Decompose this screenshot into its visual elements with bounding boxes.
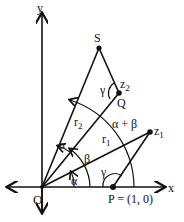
point-O: [40, 185, 44, 189]
label-alpha-bottom: α: [71, 174, 78, 188]
label-z1: z1: [154, 124, 164, 140]
label-S: S: [94, 31, 101, 45]
label-alpha-plus-beta: α + β: [112, 117, 137, 131]
label-r2: r2: [74, 115, 83, 131]
segment-P-to-z1: [113, 132, 150, 187]
label-P: P = (1, 0): [108, 192, 153, 206]
label-z2: z2: [120, 77, 130, 93]
label-Q: Q: [117, 96, 126, 110]
label-gamma-at-P: γ: [100, 165, 107, 179]
label-beta: β: [84, 152, 90, 166]
x-axis-label: x: [168, 181, 174, 195]
label-r1: r1: [102, 132, 111, 148]
arc-gamma-at-Q: [108, 83, 114, 99]
point-z1: [147, 129, 153, 135]
origin-label: O: [33, 192, 42, 207]
label-gamma-at-Q: γ: [99, 83, 106, 97]
complex-plane-rotation-diagram: y x O S Q z2 z1 P = (1, 0) r1 r2 α α β α…: [0, 0, 184, 222]
point-Q: [116, 90, 122, 96]
point-S: [96, 45, 101, 50]
ray-O-to-S: [42, 48, 99, 187]
y-axis-label: y: [37, 1, 43, 15]
label-alpha-top: α: [59, 138, 66, 152]
point-P: [110, 184, 116, 190]
